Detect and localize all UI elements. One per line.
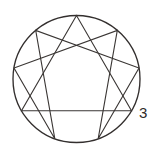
enneagram-diagram (0, 0, 157, 154)
enneagram-hexad-142857 (14, 30, 139, 138)
point-label-3: 3 (139, 105, 147, 120)
enneagram-circle (13, 16, 140, 143)
enneagram-triangle-963 (22, 16, 132, 111)
enneagram-figure: 3 (0, 0, 157, 154)
